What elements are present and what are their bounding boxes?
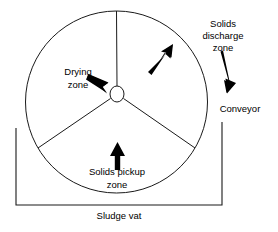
drum-spokes [38, 11, 195, 148]
arrow-down-right-icon [86, 74, 109, 94]
arrow-down-icon [221, 51, 237, 94]
sludge-drum-filter-diagram: Drying zone Solids discharge zone Convey… [0, 0, 278, 232]
solids-discharge-label-line1: Solids [210, 18, 236, 29]
spoke-top [117, 11, 118, 86]
conveyor-label: Conveyor [220, 103, 261, 114]
solids-discharge-label-line2: discharge [202, 30, 243, 41]
solids-pickup-label-line1: Solids pickup [89, 166, 145, 177]
spoke-lower-right [124, 99, 196, 149]
drying-zone-label-line2: zone [68, 79, 89, 90]
sludge-vat-label: Sludge vat [97, 210, 142, 221]
spoke-lower-left [38, 99, 111, 149]
drum-hub [110, 86, 124, 102]
diagram-canvas: Drying zone Solids discharge zone Convey… [0, 0, 278, 232]
arrow-up-right-icon [148, 44, 173, 75]
solids-discharge-label-line3: zone [213, 42, 234, 53]
drying-zone-label-line1: Drying [64, 66, 91, 77]
solids-pickup-label-line2: zone [107, 179, 128, 190]
